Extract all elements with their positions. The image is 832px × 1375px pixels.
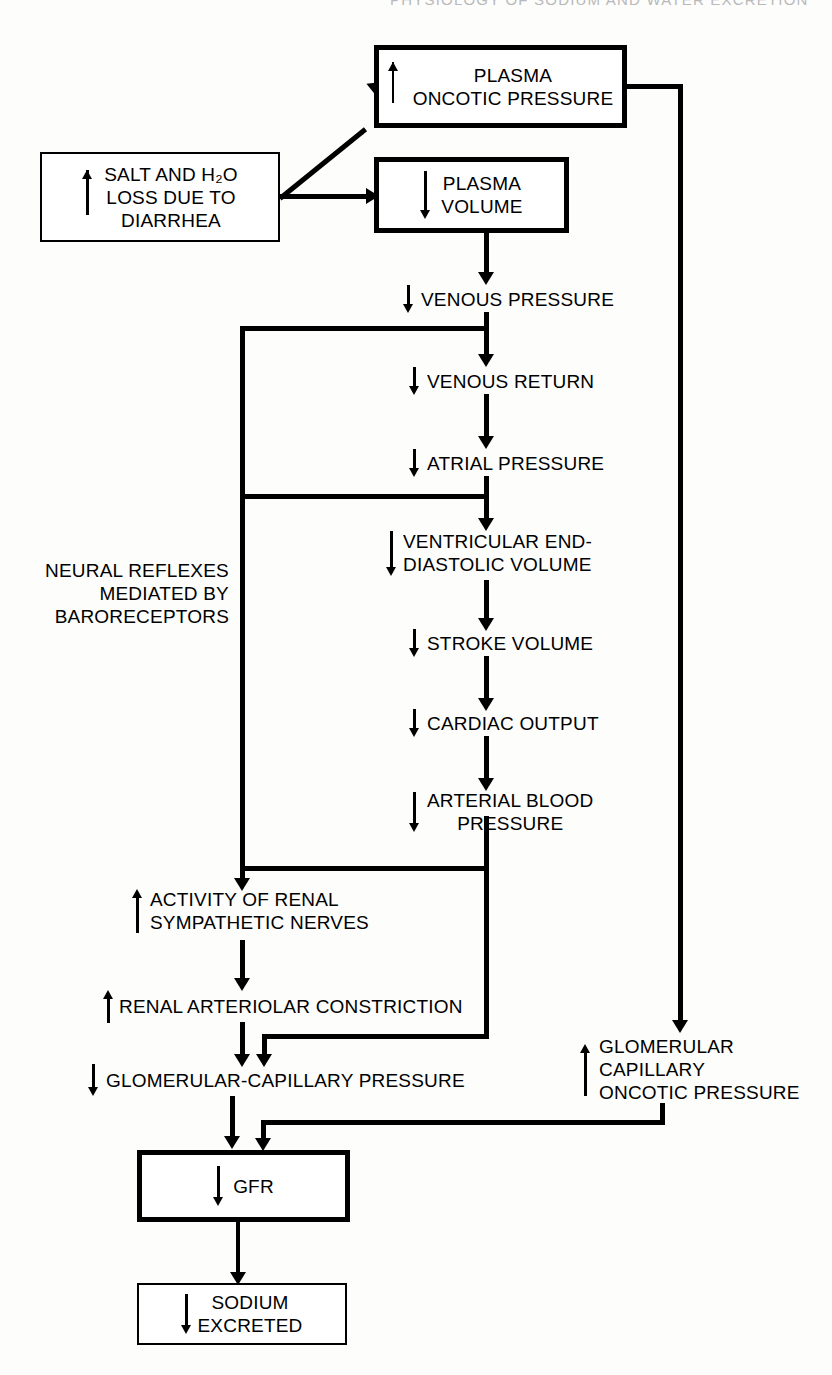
decrease-arrow-icon [409, 629, 420, 657]
edge-oncotic-rail-horizontal [627, 84, 683, 89]
running-head: PHYSIOLOGY OF SODIUM AND WATER EXCRETION [0, 0, 832, 9]
edge-volume-to-venous-pressure [484, 228, 489, 278]
edge-venous-pressure-to-return [484, 312, 489, 360]
node-neural-reflexes: NEURAL REFLEXES MEDIATED BY BARORECEPTOR… [24, 559, 229, 628]
node-ved-volume[interactable]: VENTRICULAR END- DIASTOLIC VOLUME [386, 530, 592, 576]
edge-return-to-atrial [484, 394, 489, 442]
arrowhead-venous-pressure-to-return [478, 354, 494, 367]
decrease-arrow-icon [409, 792, 420, 832]
node-cardiac-output-label: CARDIAC OUTPUT [427, 712, 599, 735]
decrease-arrow-icon [420, 171, 431, 219]
node-stroke-volume-label: STROKE VOLUME [427, 632, 593, 655]
node-ved-volume-label: VENTRICULAR END- DIASTOLIC VOLUME [403, 530, 592, 576]
decrease-arrow-icon [386, 531, 397, 576]
node-arterial-bp[interactable]: ARTERIAL BLOOD PRESSURE [409, 789, 593, 835]
decrease-arrow-icon [213, 1166, 224, 1206]
node-plasma-oncotic[interactable]: PLASMA ONCOTIC PRESSURE [374, 45, 627, 128]
edge-stroke-to-cardiac [484, 656, 489, 704]
node-venous-pressure[interactable]: VENOUS PRESSURE [403, 285, 614, 313]
edge-venous-pressure-branch [240, 326, 489, 331]
node-venous-return[interactable]: VENOUS RETURN [409, 367, 594, 395]
node-salt-loss[interactable]: SALT AND H₂O LOSS DUE TO DIARRHEA [40, 152, 280, 242]
node-glom-cap-pressure-label: GLOMERULAR-CAPILLARY PRESSURE [106, 1069, 465, 1092]
decrease-arrow-icon [88, 1064, 99, 1096]
node-venous-pressure-label: VENOUS PRESSURE [421, 288, 614, 311]
node-gfr-label: GFR [233, 1175, 274, 1198]
decrease-arrow-icon [403, 285, 414, 313]
node-plasma-volume-label: PLASMA VOLUME [441, 172, 522, 218]
increase-arrow-icon [132, 889, 143, 933]
node-sodium-excreted-label: SODIUM EXCRETED [197, 1291, 302, 1337]
edge-arterial-bp-branch [240, 866, 489, 871]
edge-atrial-pressure-branch [240, 494, 489, 499]
node-gfr[interactable]: GFR [137, 1150, 350, 1222]
edge-cardiac-to-arterial [484, 736, 489, 784]
node-stroke-volume[interactable]: STROKE VOLUME [409, 629, 593, 657]
node-salt-loss-label: SALT AND H₂O LOSS DUE TO DIARRHEA [104, 163, 238, 232]
node-sodium-excreted[interactable]: SODIUM EXCRETED [137, 1283, 347, 1345]
edge-arterial-bp-to-glom-elbow [262, 1034, 489, 1039]
edge-salt-to-oncotic [278, 127, 367, 200]
arrowhead-oncotic-to-glom-oncotic [672, 1020, 688, 1033]
node-glom-oncotic[interactable]: GLOMERULAR CAPILLARY ONCOTIC PRESSURE [580, 1035, 800, 1104]
node-venous-return-label: VENOUS RETURN [427, 370, 594, 393]
increase-arrow-icon [103, 990, 114, 1023]
diagram-canvas: PHYSIOLOGY OF SODIUM AND WATER EXCRETION [0, 0, 832, 1375]
node-atrial-pressure-label: ATRIAL PRESSURE [427, 452, 604, 475]
node-cardiac-output[interactable]: CARDIAC OUTPUT [409, 709, 599, 737]
decrease-arrow-icon [409, 709, 420, 737]
edge-oncotic-rail-vertical [678, 84, 683, 1028]
increase-arrow-icon [82, 170, 93, 224]
node-renal-symp[interactable]: ACTIVITY OF RENAL SYMPATHETIC NERVES [132, 888, 369, 934]
node-atrial-pressure[interactable]: ATRIAL PRESSURE [409, 449, 604, 477]
node-plasma-volume[interactable]: PLASMA VOLUME [374, 157, 569, 233]
increase-arrow-icon [580, 1044, 591, 1096]
arrowhead-glom-to-gfr [224, 1136, 240, 1149]
decrease-arrow-icon [181, 1294, 192, 1334]
edge-salt-to-volume [280, 194, 373, 199]
edge-baroreceptor-collector-vertical [240, 326, 245, 884]
node-arterial-bp-label: ARTERIAL BLOOD PRESSURE [427, 789, 593, 835]
decrease-arrow-icon [409, 367, 420, 395]
arrowhead-return-to-atrial [478, 436, 494, 449]
edge-atrial-to-ved [484, 476, 489, 524]
edge-arterial-bp-stub [484, 816, 489, 1039]
node-glom-oncotic-label: GLOMERULAR CAPILLARY ONCOTIC PRESSURE [599, 1035, 800, 1104]
arrowhead-volume-to-venous-pressure [478, 272, 494, 285]
edge-glom-oncotic-to-gfr-horizontal [261, 1120, 665, 1125]
node-glom-cap-pressure[interactable]: GLOMERULAR-CAPILLARY PRESSURE [88, 1064, 465, 1096]
node-plasma-oncotic-label: PLASMA ONCOTIC PRESSURE [413, 64, 614, 110]
increase-arrow-icon [388, 62, 399, 112]
decrease-arrow-icon [409, 449, 420, 477]
running-head-text: PHYSIOLOGY OF SODIUM AND WATER EXCRETION [390, 0, 809, 8]
node-arteriolar[interactable]: RENAL ARTERIOLAR CONSTRICTION [103, 990, 463, 1023]
node-arteriolar-label: RENAL ARTERIOLAR CONSTRICTION [119, 995, 463, 1018]
node-renal-symp-label: ACTIVITY OF RENAL SYMPATHETIC NERVES [150, 888, 369, 934]
